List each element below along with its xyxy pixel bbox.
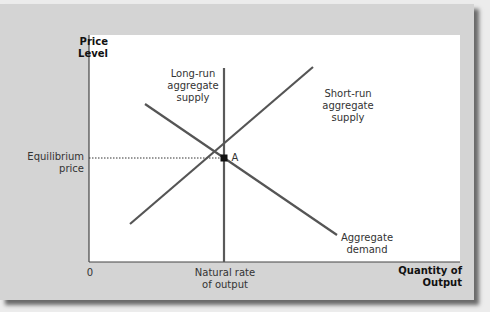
sras-label-line3: supply: [313, 112, 383, 124]
lras-label-line3: supply: [165, 92, 221, 104]
lras-label-line2: aggregate: [165, 80, 221, 92]
y-axis-label-line1: Price: [60, 36, 108, 48]
equilibrium-price-line1: Equilibrium: [10, 151, 84, 163]
x-axis-label-line2: Output: [380, 277, 462, 289]
y-axis-label: Price Level: [60, 36, 108, 60]
ad-label-line2: demand: [336, 244, 398, 256]
point-a-label: A: [230, 152, 240, 164]
equilibrium-point-a: [221, 155, 228, 162]
y-axis-label-line2: Level: [60, 48, 108, 60]
origin-label: 0: [84, 267, 96, 279]
equilibrium-price-line2: price: [10, 163, 84, 175]
natural-rate-label: Natural rate of output: [188, 267, 262, 291]
natural-rate-line1: Natural rate: [188, 267, 262, 279]
sras-label-line1: Short-run: [313, 88, 383, 100]
ad-label-line1: Aggregate: [336, 232, 398, 244]
ad-curve: [145, 104, 337, 235]
x-axis-label: Quantity of Output: [380, 265, 462, 289]
x-axis-label-line1: Quantity of: [380, 265, 462, 277]
lras-label: Long-run aggregate supply: [165, 68, 221, 104]
ad-label: Aggregate demand: [336, 232, 398, 256]
sras-label: Short-run aggregate supply: [313, 88, 383, 124]
lras-label-line1: Long-run: [165, 68, 221, 80]
sras-label-line2: aggregate: [313, 100, 383, 112]
natural-rate-line2: of output: [188, 279, 262, 291]
equilibrium-price-label: Equilibrium price: [10, 151, 84, 175]
